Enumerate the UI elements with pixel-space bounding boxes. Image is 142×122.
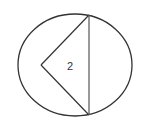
triangle-side-upper	[41, 15, 89, 65]
region-label: 2	[67, 60, 73, 72]
geometry-figure: 2	[0, 0, 142, 122]
diagram-canvas: 2	[0, 0, 142, 122]
triangle-side-lower	[41, 65, 89, 115]
